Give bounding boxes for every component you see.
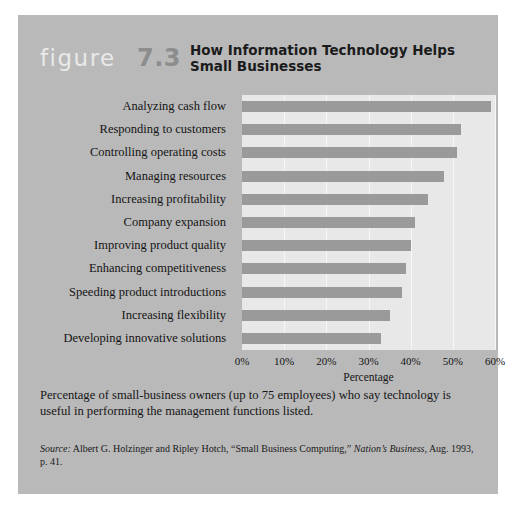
bar-chart: Percentage Analyzing cash flowResponding…	[40, 95, 480, 385]
category-label: Developing innovative solutions	[0, 331, 226, 346]
figure-header: figure 7.3 How Information Technology He…	[40, 37, 480, 87]
figure-word-label: figure	[40, 45, 116, 71]
source-text: Albert G. Holzinger and Ripley Hotch, “S…	[71, 443, 354, 454]
category-label: Increasing profitability	[0, 192, 226, 207]
bar	[242, 310, 390, 321]
source-publication: Nation’s Business	[354, 443, 425, 454]
bar	[242, 147, 457, 158]
category-label: Enhancing competitiveness	[0, 261, 226, 276]
bar-row	[242, 165, 495, 188]
bar	[242, 287, 402, 298]
bar	[242, 240, 411, 251]
bar-row	[242, 304, 495, 327]
category-label: Managing resources	[0, 169, 226, 184]
bar	[242, 333, 381, 344]
x-tick-label: 50%	[443, 355, 463, 367]
x-tick-label: 30%	[358, 355, 378, 367]
gridline	[495, 95, 496, 350]
x-tick-label: 20%	[316, 355, 336, 367]
figure-number-label: 7.3	[137, 44, 181, 72]
bar-row	[242, 211, 495, 234]
bar-row	[242, 118, 495, 141]
category-label: Improving product quality	[0, 238, 226, 253]
bar	[242, 217, 415, 228]
x-tick-label: 40%	[401, 355, 421, 367]
bar-row	[242, 234, 495, 257]
bar	[242, 263, 406, 274]
bar-row	[242, 95, 495, 118]
figure-caption: Percentage of small-business owners (up …	[40, 387, 476, 419]
bar	[242, 194, 428, 205]
figure-source: Source: Albert G. Holzinger and Ripley H…	[40, 442, 476, 468]
bar	[242, 171, 444, 182]
bar	[242, 124, 461, 135]
category-label: Speeding product introductions	[0, 285, 226, 300]
bar-row	[242, 188, 495, 211]
category-label: Responding to customers	[0, 122, 226, 137]
source-label: Source:	[40, 443, 71, 454]
bar-row	[242, 257, 495, 280]
category-label: Analyzing cash flow	[0, 99, 226, 114]
bar	[242, 101, 491, 112]
category-label: Company expansion	[0, 215, 226, 230]
bar-row	[242, 141, 495, 164]
x-axis-title: Percentage	[242, 371, 495, 383]
x-tick-label: 0%	[235, 355, 250, 367]
x-tick-label: 10%	[274, 355, 294, 367]
figure-card: figure 7.3 How Information Technology He…	[18, 15, 498, 494]
category-label: Controlling operating costs	[0, 145, 226, 160]
bar-row	[242, 280, 495, 303]
plot-area	[242, 95, 495, 350]
x-tick-label: 60%	[485, 355, 505, 367]
category-label: Increasing flexibility	[0, 308, 226, 323]
figure-title: How Information Technology Helps Small B…	[190, 42, 480, 74]
bar-row	[242, 327, 495, 350]
